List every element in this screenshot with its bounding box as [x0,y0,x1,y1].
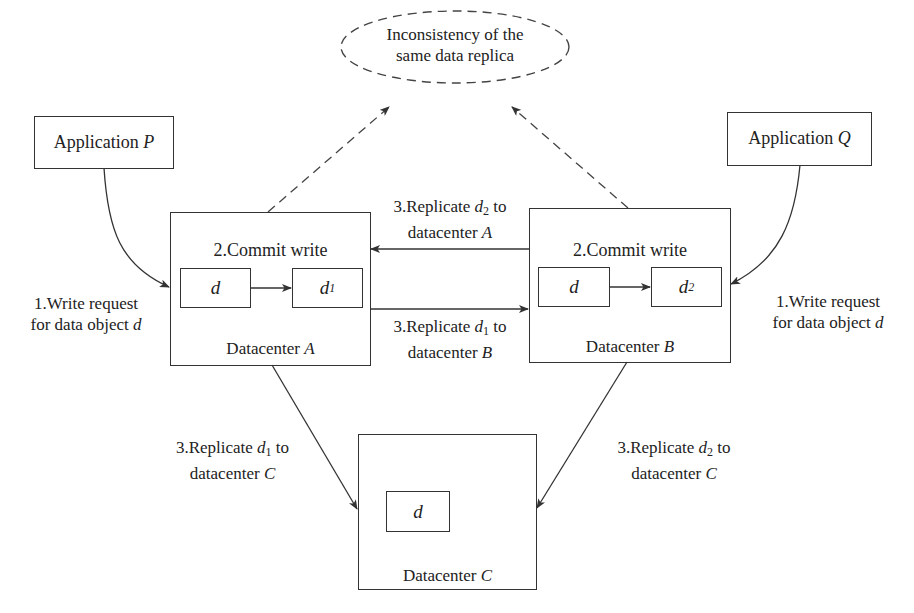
application-q-prefix: Application [748,128,837,148]
replicate-d1-b-line2: datacenter B [372,342,528,363]
replicate-d1-b-var: d [475,317,484,336]
write-request-b-var: d [875,313,884,332]
datacenter-b-updated-value: d [679,276,689,298]
write-request-b-prefix: for data object [773,313,875,332]
datacenter-a-updated-cell: d1 [292,268,363,308]
replicate-d1-c-suffix: to [272,438,289,457]
replicate-d2-c-prefix: 3.Replicate [617,438,698,457]
replicate-d1-c-line1: 3.Replicate d1 to [160,437,305,463]
replicate-label-d2-to-a: 3.Replicate d2 to datacenter A [372,196,528,243]
datacenter-c-label: Datacenter C [358,565,537,586]
conflict-label-line1: Inconsistency of the [355,24,555,45]
write-request-a-var: d [133,315,142,334]
replicate-label-d2-to-c: 3.Replicate d2 to datacenter C [600,437,748,484]
replicate-d1-b-prefix: 3.Replicate [393,317,474,336]
datacenter-b-prefix: Datacenter [586,337,664,356]
replicate-d2-a-target: A [482,223,492,242]
replicate-d1-c-prefix: 3.Replicate [176,438,257,457]
application-p-label: Application P [34,132,174,153]
replicate-d1-c-target: C [264,464,275,483]
datacenter-c-stored-cell: d [386,491,450,532]
replicate-d2-c-suffix: to [713,438,730,457]
datacenter-b-name: B [664,337,674,356]
replicate-d1-b-line2-prefix: datacenter [408,343,482,362]
replicate-d2-a-suffix: to [489,197,506,216]
replicate-d1-c-line2: datacenter C [160,463,305,484]
datacenter-a-prefix: Datacenter [226,339,304,358]
datacenter-b-updated-subscript: 2 [688,280,694,295]
datacenter-a-label: Datacenter A [170,338,371,359]
replicate-d1-c-line2-prefix: datacenter [190,464,264,483]
write-request-a-line1: 1.Write request [6,293,166,314]
datacenter-c-prefix: Datacenter [403,566,481,585]
datacenter-b-label: Datacenter B [529,336,731,357]
replicate-d2-c-line2-prefix: datacenter [631,464,705,483]
datacenter-b-step-label: 2.Commit write [529,240,731,261]
write-request-a-line2: for data object d [6,314,166,335]
datacenter-a-name: A [304,339,314,358]
replicate-d1-c-var: d [257,438,266,457]
replicate-d2-c-var: d [699,438,708,457]
write-request-a-prefix: for data object [31,315,133,334]
replicate-d1-b-target: B [482,343,492,362]
replicate-d2-a-var: d [475,197,484,216]
write-arrow-p-to-a [104,168,169,287]
application-p-prefix: Application [54,132,143,152]
application-p-name: P [143,132,154,152]
write-request-label-b: 1.Write request for data object d [748,291,908,333]
datacenter-a-original-value: d [211,277,221,299]
datacenter-b-updated-cell: d2 [651,267,722,307]
replicate-label-d1-to-b: 3.Replicate d1 to datacenter B [372,316,528,363]
replicate-d2-a-line1: 3.Replicate d2 to [372,196,528,222]
replicate-label-d1-to-c: 3.Replicate d1 to datacenter C [160,437,305,484]
replicate-d1-b-suffix: to [489,317,506,336]
datacenter-a-updated-subscript: 1 [329,281,335,296]
conflict-arrow-from-a [268,107,389,212]
application-q-name: Q [838,128,851,148]
datacenter-c-name: C [481,566,492,585]
replicate-d2-a-prefix: 3.Replicate [393,197,474,216]
datacenter-a-step-label: 2.Commit write [170,240,371,261]
write-request-b-line1: 1.Write request [748,291,908,312]
datacenter-b-original-cell: d [538,267,610,307]
datacenter-a-updated-value: d [320,277,330,299]
replicate-d1-b-line1: 3.Replicate d1 to [372,316,528,342]
datacenter-a-original-cell: d [180,268,251,308]
conflict-arrow-from-b [512,107,628,208]
write-arrow-q-to-b [731,165,800,284]
write-request-b-line2: for data object d [748,312,908,333]
datacenter-b-original-value: d [569,276,579,298]
replicate-d2-c-target: C [705,464,716,483]
replicate-d2-a-line2: datacenter A [372,222,528,243]
application-q-label: Application Q [727,128,872,149]
replicate-arrow-b-to-c [537,362,627,508]
write-request-label-a: 1.Write request for data object d [6,293,166,335]
replicate-d2-c-line1: 3.Replicate d2 to [600,437,748,463]
conflict-label-line2: same data replica [355,45,555,66]
conflict-label: Inconsistency of the same data replica [355,24,555,66]
replicate-d2-c-line2: datacenter C [600,463,748,484]
datacenter-c-stored-value: d [413,501,423,523]
replicate-d2-a-line2-prefix: datacenter [408,223,482,242]
